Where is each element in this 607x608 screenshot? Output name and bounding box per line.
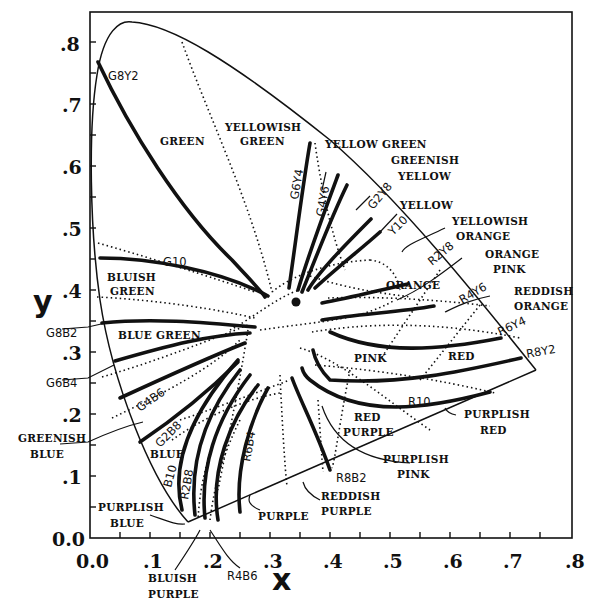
label-greenish-blue-2: BLUE: [30, 448, 64, 460]
label-yellow: YELLOW: [399, 199, 453, 211]
label-blue: BLUE: [150, 448, 184, 460]
label-bluish-purple-2: PURPLE: [148, 588, 199, 600]
y-tick-labels: 0.0 .1 .2 .3 .4 .5 .6 .7 .8: [52, 33, 85, 550]
y-axis-title: y: [33, 284, 53, 319]
y-tick-5: .5: [62, 218, 82, 240]
y-tick-3: .3: [62, 342, 82, 364]
label-yellowish-orange-2: ORANGE: [456, 230, 510, 242]
label-red-purple-2: PURPLE: [343, 426, 394, 438]
x-tick-8: .8: [565, 550, 585, 572]
x-tick-1: .1: [143, 550, 163, 572]
x-tick-0: 0.0: [76, 550, 109, 572]
code-r4b6: R4B6: [227, 569, 258, 583]
y-tick-6: .6: [62, 156, 82, 178]
x-tick-5: .5: [383, 550, 403, 572]
label-yellow-green: YELLOW GREEN: [324, 138, 427, 150]
label-purplish-blue-2: BLUE: [110, 517, 144, 529]
label-purple: PURPLE: [258, 510, 309, 522]
code-g10: G10: [163, 255, 187, 269]
label-greenish-blue-1: GREENISH: [18, 432, 86, 444]
code-r6b4: R6B4: [239, 430, 258, 462]
code-y10: Y10: [385, 213, 411, 239]
x-tick-labels: 0.0 .1 .2 .3 .4 .5 .6 .7 .8: [76, 550, 585, 572]
code-g4y6: G4Y6: [313, 185, 332, 218]
label-reddish-purple-1: REDDISH: [321, 490, 380, 502]
label-blue-green: BLUE GREEN: [118, 329, 201, 341]
label-bluish-purple-1: BLUISH: [148, 572, 197, 584]
label-orange: ORANGE: [386, 279, 440, 291]
y-tick-4: .4: [62, 280, 82, 302]
code-b10: B10: [160, 463, 179, 488]
y-tick-7: .7: [62, 94, 82, 116]
label-red-purple-1: RED: [354, 411, 381, 423]
code-r8b2: R8B2: [336, 471, 367, 485]
label-purplish-pink-1: PURPLISH: [383, 453, 449, 465]
code-r6y4: R6Y4: [495, 313, 528, 338]
code-r4y6: R4Y6: [457, 280, 490, 307]
label-green: GREEN: [160, 135, 205, 147]
label-purplish-pink-2: PINK: [397, 468, 430, 480]
x-axis-ticks: [120, 532, 540, 538]
code-g8y2: G8Y2: [108, 69, 139, 83]
label-orange-pink-1: ORANGE: [485, 248, 539, 260]
code-g8b2: G8B2: [46, 326, 77, 340]
x-tick-2: .2: [203, 550, 223, 572]
code-g2y8: G2Y8: [365, 180, 395, 212]
label-greenish-yellow-2: YELLOW: [397, 170, 451, 182]
label-reddish-orange-1: REDDISH: [514, 285, 573, 297]
label-bluish-green-1: BLUISH: [107, 271, 156, 283]
x-tick-6: .6: [443, 550, 463, 572]
x-tick-4: .4: [323, 550, 343, 572]
label-yellowish-green-1: YELLOWISH: [224, 121, 301, 133]
white-point-marker: [292, 298, 301, 307]
label-orange-pink-2: PINK: [493, 263, 526, 275]
label-purplish-blue-1: PURPLISH: [98, 501, 164, 513]
label-reddish-orange-2: ORANGE: [514, 300, 568, 312]
chromaticity-diagram: 0.0 .1 .2 .3 .4 .5 .6 .7 .8 0.0 .1 .2 .3…: [0, 0, 607, 608]
y-tick-0: 0.0: [52, 528, 85, 550]
label-purplish-red-2: RED: [480, 424, 507, 436]
label-reddish-purple-2: PURPLE: [321, 505, 372, 517]
label-purplish-red-1: PURPLISH: [464, 408, 530, 420]
label-yellowish-orange-1: YELLOWISH: [451, 215, 528, 227]
label-greenish-yellow-1: GREENISH: [391, 154, 459, 166]
label-red: RED: [448, 350, 475, 362]
code-g6b4: G6B4: [46, 376, 77, 390]
x-axis-title: x: [272, 562, 291, 597]
y-tick-1: .1: [62, 466, 82, 488]
code-r10: R10: [408, 395, 431, 409]
y-tick-8: .8: [60, 33, 80, 55]
label-pink: PINK: [354, 352, 387, 364]
code-r8y2: R8Y2: [525, 342, 557, 361]
x-tick-7: .7: [503, 550, 523, 572]
label-bluish-green-2: GREEN: [110, 285, 155, 297]
y-tick-2: .2: [62, 404, 82, 426]
code-r2y8: R2Y8: [425, 239, 457, 269]
label-yellowish-green-2: GREEN: [240, 135, 285, 147]
